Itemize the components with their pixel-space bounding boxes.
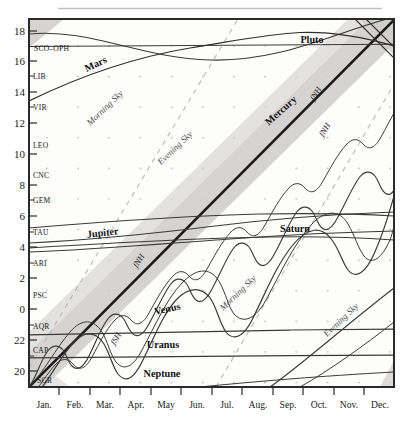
constellation-label-ari: ARI bbox=[33, 259, 47, 268]
y-tick-label: 22 bbox=[14, 334, 25, 346]
chart-page: 18 16 14 12 10 8 6 4 2 0 22 20 bbox=[0, 0, 409, 421]
y-tick-label: 10 bbox=[14, 148, 26, 160]
x-tick-label-aug: Aug. bbox=[249, 399, 268, 410]
constellation-label-vir: VIR bbox=[33, 103, 47, 112]
y-tick-label: 18 bbox=[14, 25, 26, 37]
x-tick-label-may: May bbox=[157, 399, 175, 410]
y-tick-label: 16 bbox=[14, 55, 26, 67]
constellation-label-leo: LEO bbox=[33, 141, 49, 150]
constellation-label-cnc: CNC bbox=[33, 171, 49, 180]
planet-label-saturn: Saturn bbox=[280, 223, 310, 234]
planet-label-neptune: Neptune bbox=[144, 368, 181, 379]
plot-area bbox=[29, 0, 394, 402]
y-tick-label: 12 bbox=[14, 117, 25, 129]
x-tick-label-apr: Apr. bbox=[128, 399, 145, 410]
constellation-label-sco-oph: SCO–OPH bbox=[34, 44, 69, 53]
x-tick-label-mar: Mar. bbox=[96, 399, 114, 410]
y-tick-label: 4 bbox=[20, 241, 26, 253]
y-tick-label: 14 bbox=[14, 86, 26, 98]
x-tick-label-dec: Dec. bbox=[371, 399, 389, 410]
constellation-label-psc: PSC bbox=[33, 291, 47, 300]
planet-label-pluto: Pluto bbox=[300, 34, 323, 45]
x-tick-label-sep: Sep. bbox=[280, 399, 297, 410]
y-tick-label: 8 bbox=[20, 179, 26, 191]
constellation-label-gem: GEM bbox=[33, 196, 51, 205]
planet-label-uranus: Uranus bbox=[147, 339, 179, 350]
constellation-label-lib: LIB bbox=[33, 72, 46, 81]
x-tick-label-oct: Oct. bbox=[311, 399, 327, 410]
y-tick-label: 0 bbox=[20, 303, 26, 315]
x-tick-label-jun: Jun. bbox=[189, 399, 205, 410]
y-tick-label: 20 bbox=[14, 365, 26, 377]
constellation-label-cap: CAP bbox=[33, 346, 48, 355]
constellation-label-sgr: SGR bbox=[37, 376, 53, 385]
y-tick-label: 2 bbox=[20, 272, 26, 284]
x-tick-label-jan: Jan. bbox=[36, 399, 51, 410]
y-tick-label: 6 bbox=[20, 210, 26, 222]
constellation-label-aqr: AQR bbox=[33, 322, 50, 331]
x-tick-label-jul: Jul. bbox=[220, 399, 234, 410]
x-axis: Jan. Feb. Mar. Apr. May Jun. Jul. Aug. S… bbox=[36, 387, 389, 410]
planet-visibility-chart: 18 16 14 12 10 8 6 4 2 0 22 20 bbox=[0, 0, 409, 421]
constellation-label-tau: TAU bbox=[33, 228, 49, 237]
x-tick-label-nov: Nov. bbox=[340, 399, 358, 410]
x-tick-label-feb: Feb. bbox=[67, 399, 84, 410]
